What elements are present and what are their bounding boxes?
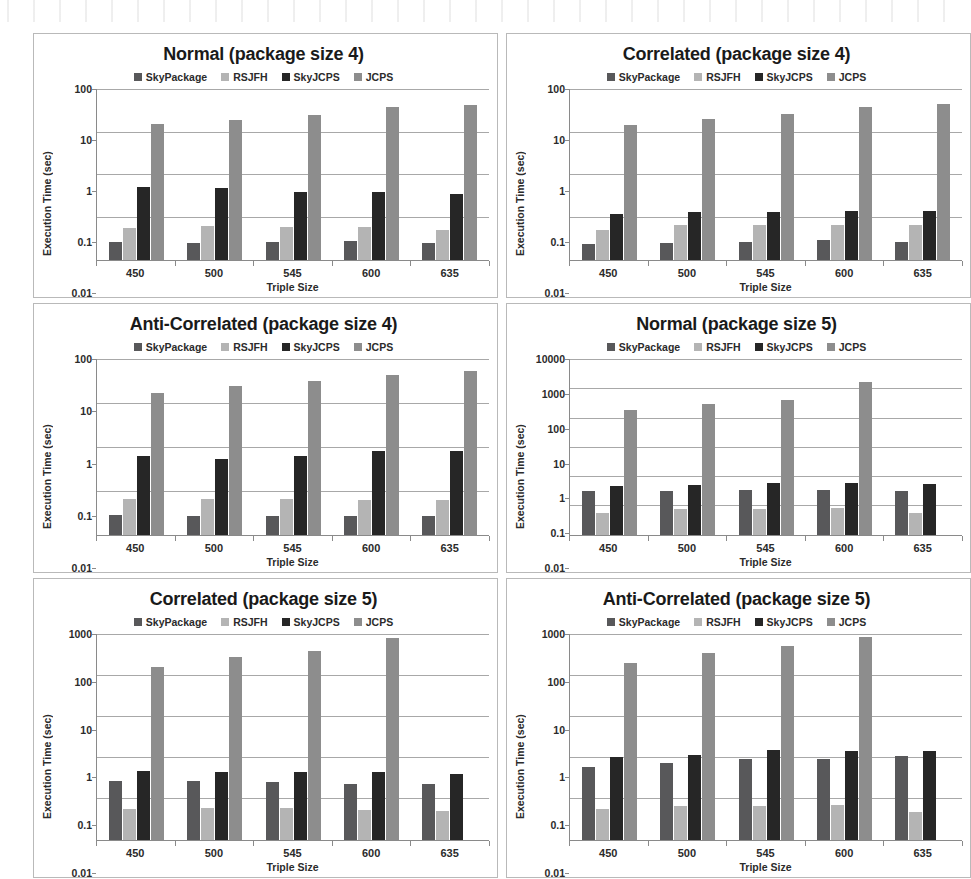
chart-legend: SkyPackageRSJFHSkyJCPSJCPS <box>607 616 866 628</box>
bar-skypackage-500 <box>660 491 673 534</box>
legend-label: SkyJCPS <box>767 341 813 353</box>
legend-swatch-icon <box>282 618 290 626</box>
bar-rsjfh-600 <box>358 227 371 260</box>
bar-group <box>175 89 253 260</box>
x-tick-mark <box>805 536 806 541</box>
bar-jcps-450 <box>624 125 637 259</box>
x-tick-mark <box>489 841 490 846</box>
bar-skyjcps-450 <box>137 456 150 535</box>
legend-swatch-icon <box>607 343 615 351</box>
bar-jcps-600 <box>386 107 399 259</box>
bar-jcps-450 <box>624 663 637 840</box>
x-axis-ticks: 450500545600635 <box>96 847 489 859</box>
legend-swatch-icon <box>354 618 362 626</box>
legend-entry-skyjcps: SkyJCPS <box>282 71 340 83</box>
bar-rsjfh-600 <box>831 508 844 535</box>
y-tick-label: 100 <box>74 676 92 688</box>
bar-skypackage-500 <box>187 516 200 534</box>
bar-jcps-500 <box>702 119 715 259</box>
bar-skyjcps-450 <box>137 187 150 259</box>
x-tick-mark <box>253 536 254 541</box>
chart-panel: Correlated (package size 5)SkyPackageRSJ… <box>33 578 498 878</box>
bar-skypackage-600 <box>344 784 357 840</box>
bar-jcps-500 <box>229 120 242 260</box>
legend-label: JCPS <box>839 341 866 353</box>
bar-group <box>254 89 332 260</box>
legend-swatch-icon <box>134 618 142 626</box>
legend-entry-skyjcps: SkyJCPS <box>282 341 340 353</box>
bar-group <box>254 359 332 535</box>
bar-group <box>805 634 883 840</box>
x-tick-mark <box>569 841 570 846</box>
bar-jcps-600 <box>859 382 872 535</box>
y-tick-label: 10 <box>80 134 92 146</box>
x-tick-label: 500 <box>175 847 254 859</box>
plot-column: 450500545600635Triple Size <box>96 359 489 568</box>
legend-swatch-icon <box>607 73 615 81</box>
bar-skyjcps-635 <box>450 194 463 260</box>
bar-group <box>175 359 253 535</box>
bar-skypackage-600 <box>817 240 830 259</box>
legend-swatch-icon <box>134 343 142 351</box>
y-tick-label: 0.1 <box>550 527 565 539</box>
x-tick-mark <box>569 261 570 266</box>
bar-group <box>254 634 332 840</box>
legend-swatch-icon <box>694 618 702 626</box>
bar-group <box>727 359 805 535</box>
y-tick-label: 0.1 <box>77 510 92 522</box>
bar-group <box>332 634 410 840</box>
bar-group <box>570 359 648 535</box>
x-tick-label: 545 <box>726 267 805 279</box>
plot-wrapper: Execution Time (sec)0.010.11101004505005… <box>511 89 962 293</box>
chart-panel: Anti-Correlated (package size 4)SkyPacka… <box>33 303 498 573</box>
bar-rsjfh-600 <box>831 225 844 259</box>
bar-group <box>411 359 489 535</box>
legend-entry-skyjcps: SkyJCPS <box>282 616 340 628</box>
bar-rsjfh-545 <box>280 499 293 534</box>
bar-rsjfh-450 <box>123 809 136 840</box>
bar-skypackage-635 <box>895 491 908 535</box>
bar-group <box>805 359 883 535</box>
bar-jcps-450 <box>151 124 164 259</box>
y-tick-mark <box>565 293 569 294</box>
chart-panel: Correlated (package size 4)SkyPackageRSJ… <box>506 33 971 298</box>
plot-area <box>569 89 962 260</box>
y-axis-label: Execution Time (sec) <box>511 359 529 568</box>
bar-jcps-545 <box>308 381 321 535</box>
x-tick-label: 600 <box>332 542 411 554</box>
bar-skypackage-450 <box>582 491 595 535</box>
bar-rsjfh-500 <box>201 808 214 840</box>
x-tick-label: 600 <box>332 267 411 279</box>
bar-skyjcps-545 <box>767 750 780 839</box>
y-tick-label: 0.01 <box>545 562 565 573</box>
legend-entry-skyjcps: SkyJCPS <box>755 71 813 83</box>
legend-entry-jcps: JCPS <box>827 616 866 628</box>
bar-skyjcps-500 <box>215 188 228 260</box>
bar-skyjcps-545 <box>767 483 780 534</box>
y-tick-label: 10 <box>553 724 565 736</box>
bar-skypackage-450 <box>582 244 595 259</box>
chart-legend: SkyPackageRSJFHSkyJCPSJCPS <box>134 71 393 83</box>
legend-label: SkyJCPS <box>767 616 813 628</box>
y-tick-label: 100 <box>74 353 92 365</box>
bar-jcps-450 <box>151 667 164 840</box>
bar-rsjfh-545 <box>753 225 766 260</box>
legend-swatch-icon <box>221 618 229 626</box>
bar-jcps-600 <box>386 375 399 534</box>
legend-entry-jcps: JCPS <box>354 341 393 353</box>
bar-skypackage-500 <box>187 243 200 259</box>
bar-skypackage-450 <box>582 767 595 839</box>
bar-skypackage-500 <box>660 763 673 839</box>
x-tick-mark <box>253 261 254 266</box>
bar-skyjcps-600 <box>845 211 858 260</box>
legend-label: SkyJCPS <box>294 71 340 83</box>
x-tick-mark <box>96 261 97 266</box>
bar-skyjcps-545 <box>767 212 780 259</box>
bar-group <box>727 89 805 260</box>
bar-skypackage-635 <box>895 756 908 840</box>
x-axis-label: Triple Size <box>96 281 489 293</box>
y-tick-label: 0.01 <box>545 867 565 878</box>
bar-skyjcps-545 <box>294 192 307 260</box>
x-tick-mark <box>96 841 97 846</box>
